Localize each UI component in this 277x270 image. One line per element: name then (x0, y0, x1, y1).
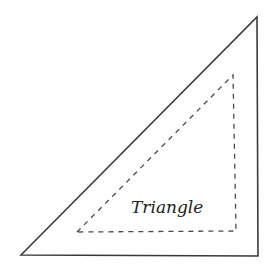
triangle-diagram: Triangle (0, 0, 277, 270)
triangle-label: Triangle (131, 197, 203, 217)
diagram-canvas: Triangle (0, 0, 277, 270)
outer-triangle-shape (21, 17, 258, 256)
